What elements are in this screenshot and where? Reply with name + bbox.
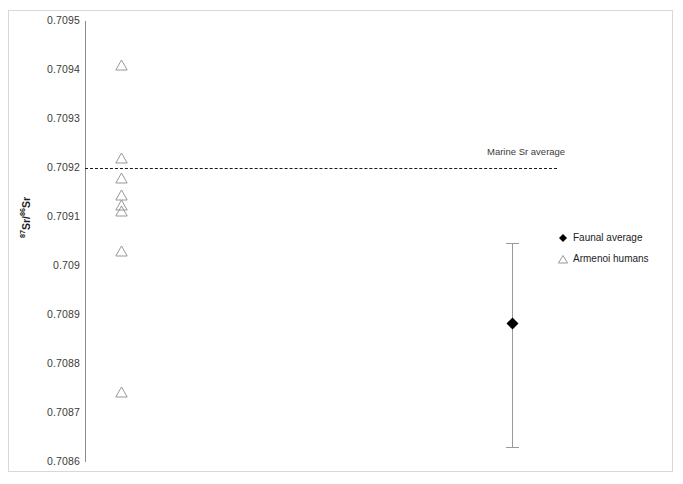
filled-diamond-icon [556,232,570,244]
faunal-error-bar-cap-top [506,243,519,244]
y-axis-tick-label: 0.7087 [6,406,80,418]
open-triangle-icon [556,253,570,265]
faunal-error-bar-line [512,243,513,447]
y-axis-tick-label: 0.7089 [6,308,80,320]
y-axis-tick-label: 0.7092 [6,161,80,173]
marine-sr-average-label: Marine Sr average [487,146,565,157]
y-axis-tick-label: 0.7094 [6,63,80,75]
y-axis-tick-labels: 0.70950.70940.70930.70920.70910.7090.708… [0,0,80,484]
y-axis-spine [85,21,86,462]
legend-item-label: Armenoi humans [573,254,649,264]
chart-legend: Faunal averageArmenoi humans [556,227,676,269]
y-axis-title-sr-slash: Sr/ [20,216,32,230]
armenoi-human-data-point [115,245,128,257]
y-axis-title-superscript-87: 87 [18,230,27,238]
y-axis-tick-label: 0.7088 [6,357,80,369]
armenoi-human-data-point [115,205,128,217]
armenoi-human-data-point [115,386,128,398]
faunal-error-bar-cap-bottom [506,447,519,448]
y-axis-title: 87Sr/86Sr [18,197,32,238]
faunal-average-marker [506,316,519,329]
armenoi-human-data-point [115,172,128,184]
y-axis-title-sr: Sr [20,197,32,208]
chart-figure: 0.70950.70940.70930.70920.70910.7090.708… [0,0,683,484]
y-axis-tick-label: 0.7086 [6,455,80,467]
armenoi-human-data-point [115,59,128,71]
legend-item: Faunal average [556,227,676,248]
legend-item: Armenoi humans [556,248,676,269]
marine-sr-average-line [85,168,557,169]
armenoi-human-data-point [115,152,128,164]
y-axis-tick-label: 0.7093 [6,112,80,124]
y-axis-tick-label: 0.709 [6,259,80,271]
y-axis-tick-label: 0.7095 [6,14,80,26]
legend-item-label: Faunal average [573,233,643,243]
y-axis-title-superscript-86: 86 [18,208,27,216]
